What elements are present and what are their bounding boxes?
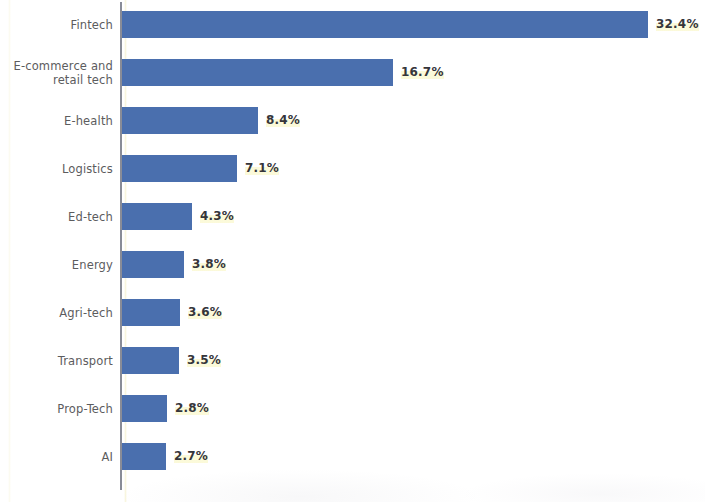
bar [122,11,648,38]
category-label: Transport [0,354,113,368]
bar [122,203,192,230]
bar-row: Transport3.5% [0,347,705,395]
bar-row: E-health8.4% [0,107,705,155]
category-label: Prop-Tech [0,402,113,416]
value-label: 16.7% [401,65,444,79]
bar-row: Ed-tech4.3% [0,203,705,251]
value-label: 3.5% [187,353,221,367]
bar [122,443,166,470]
value-label: 3.8% [192,257,226,271]
bar-row: Fintech32.4% [0,11,705,59]
category-label: E-health [0,114,113,128]
plot-area: Fintech32.4%E-commerce andretail tech16.… [0,0,705,502]
category-label: Agri-tech [0,306,113,320]
category-label: Ed-tech [0,210,113,224]
bar-row: Prop-Tech2.8% [0,395,705,443]
category-label: Energy [0,258,113,272]
value-label: 32.4% [656,17,699,31]
bar [122,107,258,134]
category-label: E-commerce andretail tech [0,59,113,87]
bar [122,155,237,182]
bar-row: Agri-tech3.6% [0,299,705,347]
bar [122,395,167,422]
bar-row: Energy3.8% [0,251,705,299]
value-label: 2.8% [175,401,209,415]
bar [122,299,180,326]
category-label: AI [0,450,113,464]
value-label: 7.1% [245,161,279,175]
value-label: 4.3% [200,209,234,223]
bar [122,59,393,86]
bar-chart: Fintech32.4%E-commerce andretail tech16.… [0,0,705,502]
bar-row: E-commerce andretail tech16.7% [0,59,705,107]
bar-row: Logistics7.1% [0,155,705,203]
bar [122,251,184,278]
category-label: Fintech [0,18,113,32]
value-label: 8.4% [266,113,300,127]
bar [122,347,179,374]
bar-row: AI2.7% [0,443,705,491]
value-label: 3.6% [188,305,222,319]
value-label: 2.7% [174,449,208,463]
category-label: Logistics [0,162,113,176]
